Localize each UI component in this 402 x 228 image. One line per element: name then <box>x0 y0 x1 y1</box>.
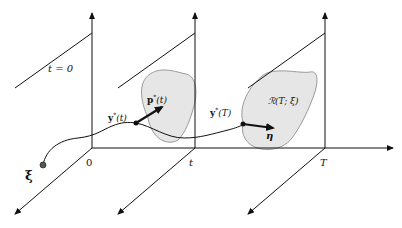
plane0-diagonal <box>15 33 92 88</box>
optimal-trajectory <box>43 122 243 165</box>
initial-state-label: ξ <box>25 168 33 183</box>
axis-label-T: T <box>320 157 328 168</box>
plane0-label: t = 0 <box>48 63 74 74</box>
state-T-label: y*(T) <box>209 106 232 118</box>
reachable-set-blob <box>242 71 317 150</box>
normal-vector-label: η <box>266 130 273 141</box>
costate-label: p*(t) <box>147 93 167 105</box>
plane-t-depth-axis <box>118 148 195 214</box>
costate-region-blob <box>142 70 196 142</box>
plane-T-depth-axis <box>248 148 325 214</box>
axis-label-t: t <box>189 157 194 168</box>
axis-label-0: 0 <box>86 157 92 168</box>
state-t-label: y*(t) <box>107 111 127 123</box>
diagram-canvas: t = 0 0 t T ξ y*(t) p*(t) y*(T) ℛ(T; ξ) … <box>0 0 402 228</box>
initial-state-dot <box>40 162 46 168</box>
reachable-set-label: ℛ(T; ξ) <box>268 96 299 106</box>
